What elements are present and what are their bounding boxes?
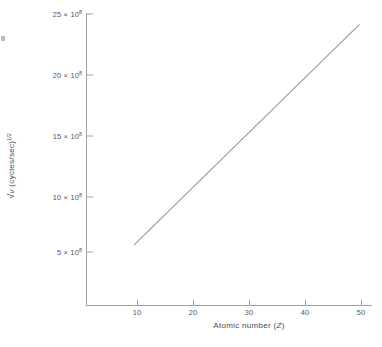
x-axis-title-text: Atomic number ( — [213, 321, 276, 330]
x-axis-title-close: ) — [282, 321, 285, 330]
y-axis-title: √ν (cycles/sec)1/2 — [6, 133, 17, 198]
y-tick-exponent-5: 8 — [79, 247, 82, 253]
x-tick-label-10: 10 — [133, 308, 142, 317]
x-tick-label-20: 20 — [189, 308, 198, 317]
x-tick-label-40: 40 — [301, 308, 310, 317]
y-axis-title-symbol: ν — [7, 189, 16, 193]
data-series-moseley-line — [134, 25, 359, 245]
y-tick-label-20: 20 × 108 — [38, 70, 82, 80]
plot-area — [0, 0, 382, 347]
y-tick-exponent-20: 8 — [79, 70, 82, 76]
radical-icon: √ — [6, 193, 16, 198]
x-axis-title: Atomic number (Z) — [213, 321, 284, 330]
y-axis-title-units: (cycles/sec) — [7, 141, 16, 189]
y-tick-label-15: 15 × 108 — [38, 131, 82, 141]
chart-figure: 25 × 108 20 × 108 15 × 108 10 × 108 5 × … — [0, 0, 382, 347]
y-tick-label-10: 10 × 108 — [38, 192, 82, 202]
x-tick-label-50: 50 — [357, 308, 366, 317]
y-tick-exponent-25: 8 — [79, 9, 82, 15]
x-tick-label-30: 30 — [245, 308, 254, 317]
y-tick-exponent-15: 8 — [79, 131, 82, 137]
y-tick-label-5: 5 × 108 — [38, 247, 82, 257]
y-tick-exponent-10: 8 — [79, 192, 82, 198]
y-axis-title-exponent: 1/2 — [6, 133, 12, 141]
y-tick-label-25: 25 × 108 — [38, 9, 82, 19]
